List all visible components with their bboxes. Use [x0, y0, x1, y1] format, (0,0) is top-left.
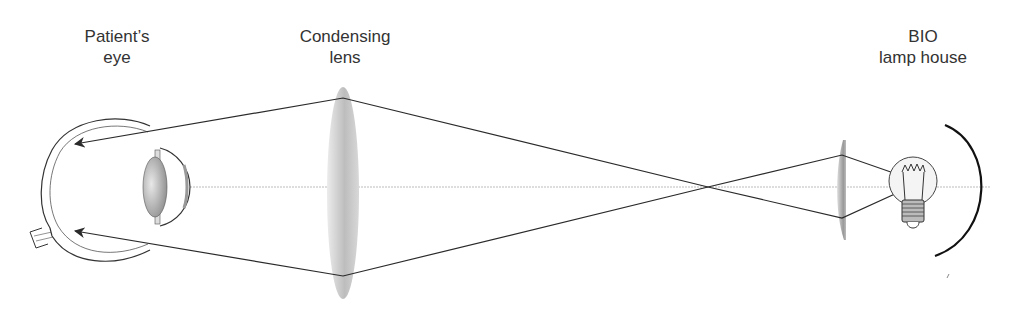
crystalline-lens: [143, 157, 167, 217]
stray-mark: [947, 274, 949, 278]
eye-diagram: [30, 119, 190, 261]
light-bulb-icon: [889, 157, 937, 228]
optics-diagram: [0, 0, 1014, 310]
reflector-mirror: [935, 125, 981, 256]
condensing-lens: [327, 87, 359, 299]
